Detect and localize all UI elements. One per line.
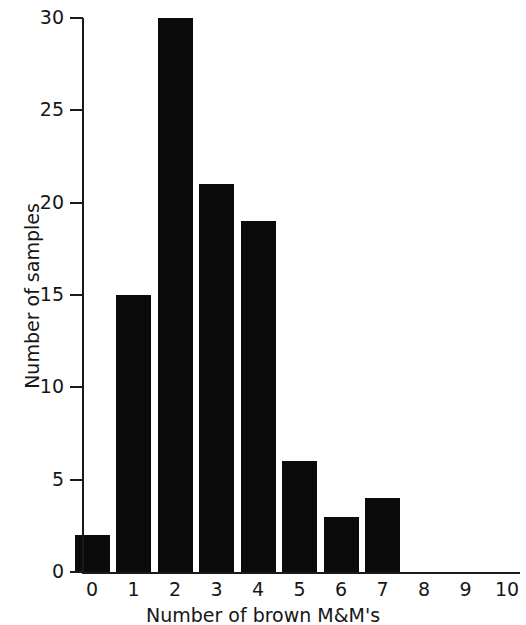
y-tick-label-5: 5: [22, 470, 64, 489]
histogram-figure: 051015202530 012345678910 Number of samp…: [0, 0, 526, 625]
y-tick-label-0: 0: [22, 562, 64, 581]
x-tick-label-1: 1: [114, 578, 154, 600]
y-tick-10: [70, 386, 83, 388]
y-tick-label-25: 25: [22, 100, 64, 119]
x-tick-label-8: 8: [404, 578, 444, 600]
x-tick-label-5: 5: [280, 578, 320, 600]
bar-3: [199, 184, 234, 572]
x-axis-line: [82, 572, 520, 574]
bar-6: [324, 517, 359, 572]
x-tick-label-0: 0: [72, 578, 112, 600]
plot-area: 051015202530 012345678910 Number of samp…: [0, 0, 526, 625]
x-tick-label-6: 6: [321, 578, 361, 600]
y-tick-20: [70, 202, 83, 204]
y-tick-5: [70, 479, 83, 481]
bar-1: [116, 295, 151, 572]
x-tick-label-3: 3: [197, 578, 237, 600]
y-axis-line: [82, 18, 84, 574]
x-tick-label-10: 10: [487, 578, 526, 600]
x-tick-label-4: 4: [238, 578, 278, 600]
bar-4: [241, 221, 276, 572]
y-tick-0: [70, 571, 83, 573]
y-tick-30: [70, 17, 83, 19]
x-tick-label-2: 2: [155, 578, 195, 600]
y-tick-label-30: 30: [22, 8, 64, 27]
bar-7: [365, 498, 400, 572]
y-tick-15: [70, 294, 83, 296]
bar-0: [75, 535, 110, 572]
bar-5: [282, 461, 317, 572]
y-tick-25: [70, 109, 83, 111]
bar-2: [158, 18, 193, 572]
x-axis-title: Number of brown M&M's: [0, 604, 526, 625]
x-tick-label-9: 9: [446, 578, 486, 600]
y-axis-title: Number of samples: [21, 186, 43, 406]
x-tick-label-7: 7: [363, 578, 403, 600]
